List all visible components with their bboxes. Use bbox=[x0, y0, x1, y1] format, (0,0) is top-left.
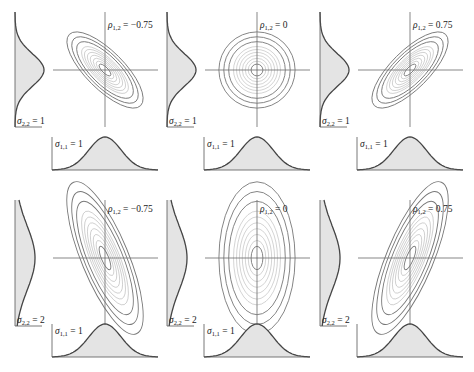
sigma22-label: σ2,2 = 2 bbox=[322, 315, 350, 326]
sigma22-marginal-fill bbox=[320, 12, 349, 127]
sigma22-marginal-fill bbox=[167, 12, 196, 127]
panel-5: σ2,2 = 2ρ1,2 = 0.75 bbox=[320, 173, 463, 357]
sigma22-label: σ2,2 = 1 bbox=[322, 116, 350, 127]
panel-1: σ2,2 = 1ρ1,2 = 0σ1,1 = 1 bbox=[167, 12, 310, 170]
rho-label: ρ1,2 = 0.75 bbox=[412, 20, 453, 31]
sigma22-label: σ2,2 = 2 bbox=[169, 315, 197, 326]
sigma11-label: σ1,1 = 1 bbox=[207, 139, 235, 150]
sigma22-label: σ2,2 = 2 bbox=[17, 315, 45, 326]
sigma22-marginal-fill bbox=[15, 12, 44, 127]
rho-label: ρ1,2 = 0 bbox=[259, 204, 288, 215]
sigma11-label: σ1,1 = 1 bbox=[55, 139, 83, 150]
bivariate-normal-figure: σ2,2 = 1ρ1,2 = −0.75σ1,1 = 1σ2,2 = 1ρ1,2… bbox=[0, 0, 474, 372]
panel-4: σ2,2 = 2ρ1,2 = 0σ1,1 = 1 bbox=[167, 182, 310, 357]
sigma22-label: σ2,2 = 1 bbox=[169, 116, 197, 127]
panel-2: σ2,2 = 1ρ1,2 = 0.75σ1,1 = 1 bbox=[320, 12, 463, 170]
panel-3: σ2,2 = 2ρ1,2 = −0.75σ1,1 = 1 bbox=[15, 173, 158, 357]
sigma11-label: σ1,1 = 1 bbox=[55, 326, 83, 337]
rho-label: ρ1,2 = −0.75 bbox=[107, 204, 153, 215]
sigma11-marginal-fill bbox=[357, 324, 463, 357]
panel-0: σ2,2 = 1ρ1,2 = −0.75σ1,1 = 1 bbox=[15, 12, 158, 170]
sigma22-label: σ2,2 = 1 bbox=[17, 116, 45, 127]
sigma11-label: σ1,1 = 1 bbox=[207, 326, 235, 337]
rho-label: ρ1,2 = 0 bbox=[259, 20, 288, 31]
rho-label: ρ1,2 = −0.75 bbox=[107, 20, 153, 31]
rho-label: ρ1,2 = 0.75 bbox=[412, 204, 453, 215]
sigma11-label: σ1,1 = 1 bbox=[360, 139, 388, 150]
